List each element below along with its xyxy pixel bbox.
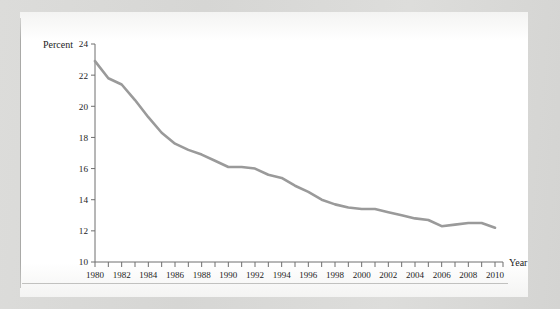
x-tick-label: 1988 [193,270,212,280]
x-tick-label: 1984 [139,270,158,280]
x-tick-label: 2004 [406,270,425,280]
y-axis-tick-labels: 2422201816141210 [79,39,89,267]
x-tick-label: 2008 [459,270,478,280]
y-tick-label: 18 [79,133,89,143]
x-axis-tick-labels: 1980198219841986198819901992199419961998… [86,270,505,280]
x-tick-label: 2000 [353,270,372,280]
x-tick-label: 2006 [433,270,452,280]
y-tick-label: 22 [79,71,89,81]
x-axis-title: Year [509,257,528,268]
chart-svg: 2422201816141210 19801982198419861988199… [20,12,528,297]
x-tick-label: 1980 [86,270,105,280]
y-axis-title: Percent [43,39,73,50]
x-tick-label: 1992 [246,270,264,280]
x-tick-label: 1998 [326,270,345,280]
y-tick-label: 24 [79,39,89,49]
y-axis-ticks [91,44,95,262]
line-chart-figure: 2422201816141210 19801982198419861988199… [20,12,528,297]
x-axis-ticks [95,262,503,267]
x-tick-label: 1982 [113,270,131,280]
y-tick-label: 10 [79,257,89,267]
x-tick-label: 1986 [166,270,185,280]
x-tick-label: 1994 [273,270,292,280]
y-tick-label: 16 [79,164,89,174]
x-tick-label: 2010 [486,270,505,280]
x-tick-label: 1990 [219,270,238,280]
x-tick-label: 1996 [299,270,318,280]
data-series-line [95,61,495,228]
chart-axes [95,44,503,262]
y-tick-label: 20 [79,102,89,112]
y-tick-label: 12 [79,226,89,236]
x-tick-label: 2002 [379,270,397,280]
y-tick-label: 14 [79,195,89,205]
